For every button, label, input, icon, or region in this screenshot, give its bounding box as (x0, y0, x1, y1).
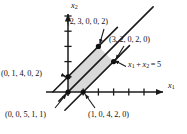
vertex-label-left: (0, 1, 4, 0, 2) (1, 70, 42, 78)
vertex-0-1 (65, 74, 70, 79)
eq-term1-sub: 1 (132, 63, 135, 69)
eq-equals: = (151, 60, 156, 69)
vertex-label-right: (3, 2, 0, 2, 0) (109, 36, 150, 44)
leader-equation (115, 61, 127, 67)
x-axis-label: x1 (168, 82, 175, 90)
vertex-label-bottom: (1, 0, 4, 2, 0) (88, 111, 129, 119)
x-axis-label-subscript: 1 (172, 84, 175, 90)
y-axis-label: x2 (71, 2, 78, 10)
leader-origin (55, 94, 66, 108)
eq-rhs: 5 (157, 60, 161, 69)
y-axis-label-subscript: 2 (75, 4, 78, 10)
vertex-1-0 (81, 89, 86, 94)
vertex-label-top: (2, 3, 0, 0, 2) (67, 18, 108, 26)
leader-bottom (85, 94, 95, 108)
leader-left (63, 75, 66, 76)
vertex-label-origin: (0, 0, 5, 1, 1) (5, 111, 46, 119)
eq-term2-sub: 2 (146, 63, 149, 69)
vertex-0-0 (65, 89, 70, 94)
vertex-2-3 (96, 44, 101, 49)
constraint-equation-label: x1 + x2 = 5 (128, 61, 161, 69)
feasible-region-figure: (2, 3, 0, 0, 2) (3, 2, 0, 2, 0) (0, 1, 4… (0, 0, 187, 134)
eq-operator: + (136, 60, 141, 69)
